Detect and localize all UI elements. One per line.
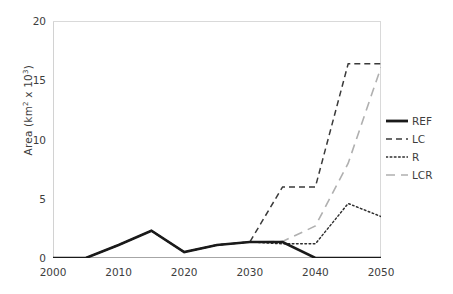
series-line-r	[53, 203, 381, 258]
legend-swatch-lc	[386, 134, 408, 144]
legend-item-lcr[interactable]: LCR	[386, 166, 450, 184]
x-tick-label: 2010	[95, 266, 143, 278]
series-line-lcr	[53, 67, 381, 258]
legend-label-lc: LC	[412, 133, 425, 145]
plot-svg	[53, 21, 381, 258]
legend-label-ref: REF	[412, 115, 432, 127]
series-line-lc	[53, 64, 381, 258]
legend-label-r: R	[412, 151, 419, 163]
x-tick-label: 2000	[29, 266, 77, 278]
legend-swatch-r	[386, 152, 408, 162]
x-tick-label: 2030	[226, 266, 274, 278]
x-tick-label: 2040	[291, 266, 339, 278]
chart-figure: Area (km2 x 103) 05101520 20002010202020…	[0, 0, 453, 294]
plot-area	[53, 21, 381, 258]
chart-legend: REFLCRLCR	[386, 112, 450, 184]
legend-item-ref[interactable]: REF	[386, 112, 450, 130]
legend-swatch-ref	[386, 116, 408, 126]
legend-item-lc[interactable]: LC	[386, 130, 450, 148]
x-tick-label: 2050	[357, 266, 405, 278]
legend-item-r[interactable]: R	[386, 148, 450, 166]
legend-swatch-lcr	[386, 170, 408, 180]
x-tick-label: 2020	[160, 266, 208, 278]
legend-label-lcr: LCR	[412, 169, 432, 181]
series-line-ref	[53, 231, 381, 258]
